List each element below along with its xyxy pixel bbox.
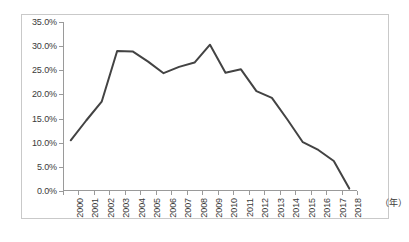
x-axis-tick-label: 2001	[90, 198, 100, 218]
x-axis-tick-label: 2008	[199, 198, 209, 218]
y-axis-tick-label: 20.0%	[32, 89, 57, 99]
x-axis-tick-label: 2005	[152, 198, 162, 218]
x-axis-tick	[218, 191, 219, 195]
y-axis-tick-label: 0.0%	[37, 186, 57, 196]
x-axis-tick	[311, 191, 312, 195]
x-axis-tick	[109, 191, 110, 195]
x-axis-tick-label: 2018	[353, 198, 363, 218]
plot-area: 0.0%5.0%10.0%15.0%20.0%25.0%30.0%35.0% 2…	[63, 22, 357, 191]
x-axis-tick-label: 2013	[276, 198, 286, 218]
x-axis-tick	[140, 191, 141, 195]
x-axis-tick-label: 2000	[75, 198, 85, 218]
x-axis-tick-label: 2012	[260, 198, 270, 218]
x-axis-tick	[264, 191, 265, 195]
x-axis-tick	[326, 191, 327, 195]
y-axis-tick-label: 15.0%	[32, 114, 57, 124]
x-axis-tick	[249, 191, 250, 195]
x-axis-tick-label: 2006	[168, 198, 178, 218]
x-axis-tick-label: 2016	[322, 198, 332, 218]
x-axis-tick	[280, 191, 281, 195]
x-axis-tick-label: 2003	[121, 198, 131, 218]
x-axis-tick	[295, 191, 296, 195]
x-axis-tick-label: 2007	[183, 198, 193, 218]
x-axis-tick-label: 2009	[214, 198, 224, 218]
x-axis-tick	[63, 191, 64, 195]
x-axis-tick-label: 2015	[307, 198, 317, 218]
x-axis-tick-label: 2002	[106, 198, 116, 218]
x-axis-tick-label: 2011	[245, 198, 255, 217]
x-axis-tick	[233, 191, 234, 195]
x-axis-title: （年）	[380, 196, 407, 209]
x-axis-tick	[202, 191, 203, 195]
x-axis-tick-label: 2010	[229, 198, 239, 218]
x-axis-tick	[187, 191, 188, 195]
x-axis-tick	[171, 191, 172, 195]
x-axis-tick-label: 2014	[291, 198, 301, 218]
y-axis-tick-label: 10.0%	[32, 138, 57, 148]
x-axis-tick	[125, 191, 126, 195]
x-axis-tick	[94, 191, 95, 195]
x-axis-tick	[342, 191, 343, 195]
x-axis-tick	[156, 191, 157, 195]
y-axis-tick-label: 35.0%	[32, 17, 57, 27]
y-axis-tick-label: 30.0%	[32, 41, 57, 51]
x-axis-tick-label: 2017	[338, 198, 348, 218]
data-series-line	[63, 22, 357, 191]
y-axis-tick-label: 5.0%	[37, 162, 57, 172]
chart-figure: 0.0%5.0%10.0%15.0%20.0%25.0%30.0%35.0% 2…	[21, 14, 389, 219]
x-axis-tick	[357, 191, 358, 195]
y-axis-tick-label: 25.0%	[32, 65, 57, 75]
x-axis-tick	[78, 191, 79, 195]
x-axis-tick-label: 2004	[137, 198, 147, 218]
